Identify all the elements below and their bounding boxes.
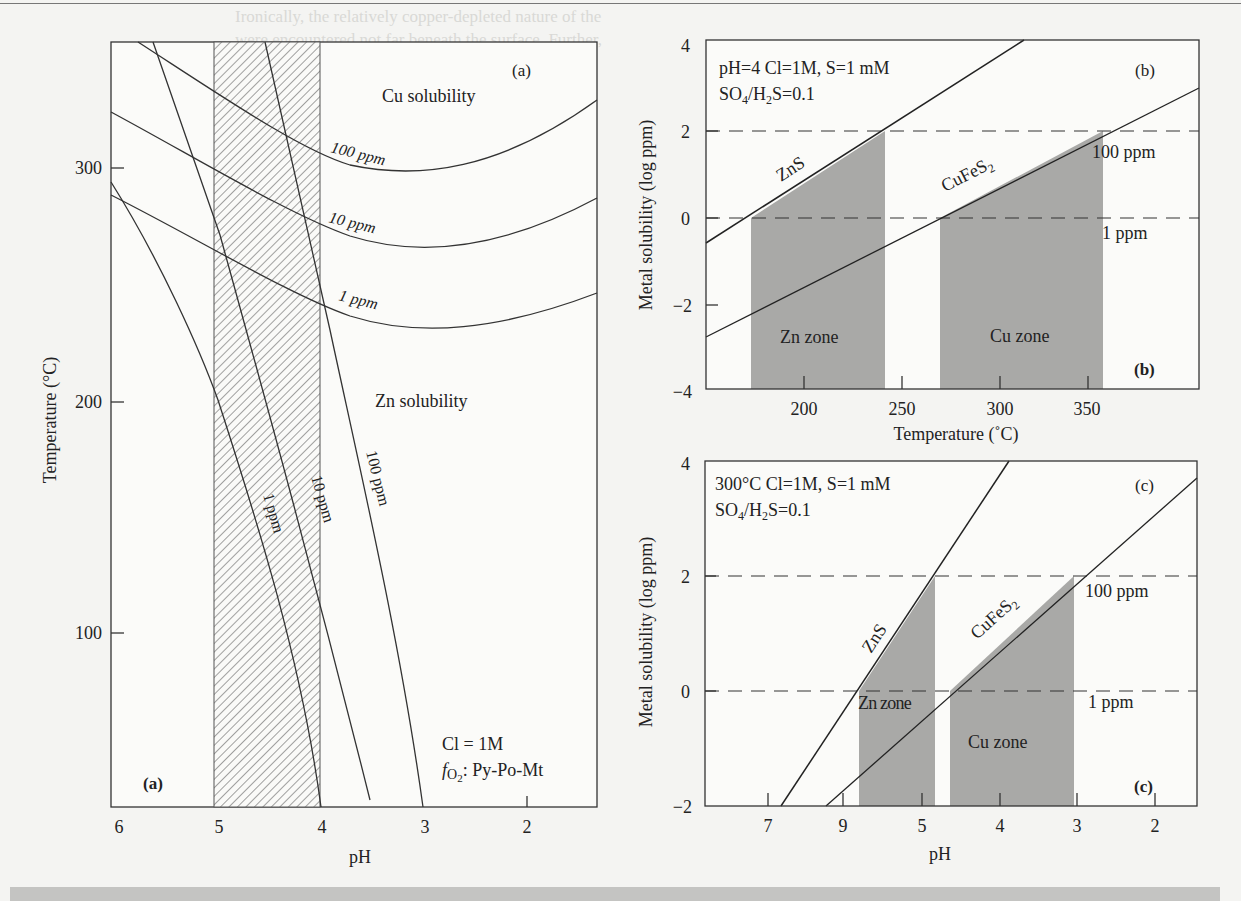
y-tick-300: 300 <box>75 158 102 178</box>
b-y-tick-2: 2 <box>681 122 690 142</box>
b-x-tick-300: 300 <box>987 399 1014 419</box>
x-tick-6: 6 <box>115 817 124 837</box>
label-100ppm: 100 ppm <box>1092 142 1156 162</box>
panel-b-ylabel: Metal solubility (log ppm) <box>636 120 657 311</box>
b-y-tick-4: 4 <box>681 36 690 56</box>
x-tick-5: 5 <box>215 817 224 837</box>
b-y-tick-neg2: −2 <box>673 296 692 316</box>
label-1ppm: 1 ppm <box>1102 223 1148 243</box>
label-100ppm-c: 100 ppm <box>1085 581 1149 601</box>
panel-a: (a) Cu solubility Zn solubility 100 ppm … <box>40 42 597 867</box>
panel-a-tag-bottom: (a) <box>143 774 163 793</box>
b-x-tick-350: 350 <box>1074 399 1101 419</box>
c-y-tick-2: 2 <box>681 567 690 587</box>
b-y-tick-0: 0 <box>681 209 690 229</box>
c-x-tick-2: 2 <box>1151 816 1160 836</box>
y-tick-200: 200 <box>75 392 102 412</box>
c-x-tick-5: 5 <box>918 816 927 836</box>
panel-a-tag: (a) <box>512 61 531 80</box>
hatched-band <box>214 42 320 807</box>
cu-zone-label: Cu zone <box>990 326 1049 346</box>
b-y-tick-neg4: −4 <box>673 382 692 402</box>
panel-c-xlabel: pH <box>929 844 951 864</box>
y-tick-100: 100 <box>75 623 102 643</box>
figure: (a) Cu solubility Zn solubility 100 ppm … <box>0 0 1241 901</box>
c-x-tick-7: 7 <box>764 816 773 836</box>
zn-solubility-label: Zn solubility <box>375 391 468 411</box>
b-x-tick-250: 250 <box>889 399 916 419</box>
x-tick-3: 3 <box>421 817 430 837</box>
zn-zone-label: Zn zone <box>780 327 838 347</box>
c-y-tick-0: 0 <box>681 682 690 702</box>
panel-c-conditions-1: 300°C Cl=1M, S=1 mM <box>715 474 891 494</box>
c-x-tick-4: 4 <box>996 816 1005 836</box>
panel-c-tag: (c) <box>1135 476 1154 495</box>
x-tick-4: 4 <box>318 817 327 837</box>
panel-a-xlabel: pH <box>349 847 371 867</box>
zn-zone-label-c: Zn zone <box>858 693 912 713</box>
cu-zone-label-c: Cu zone <box>968 732 1027 752</box>
panel-b-tag: (b) <box>1135 61 1155 80</box>
panel-c-ylabel: Metal solubility (log ppm) <box>636 537 657 728</box>
panel-b-xlabel: Temperature (˚C) <box>893 424 1018 445</box>
panel-a-ylabel: Temperature (°C) <box>40 357 61 483</box>
c-x-tick-9: 9 <box>839 816 848 836</box>
label-1ppm-c: 1 ppm <box>1088 692 1134 712</box>
page-bottom-bar <box>10 887 1220 901</box>
panel-c: 300°C Cl=1M, S=1 mM SO4/H2S=0.1 (c) (c) … <box>636 454 1197 864</box>
panel-b: pH=4 Cl=1M, S=1 mM SO4/H2S=0.1 (b) (b) Z… <box>636 36 1199 445</box>
c-y-tick-4: 4 <box>681 454 690 474</box>
x-tick-2: 2 <box>523 817 532 837</box>
conditions-cl: Cl = 1M <box>442 734 503 754</box>
c-x-tick-3: 3 <box>1073 816 1082 836</box>
panel-b-conditions-1: pH=4 Cl=1M, S=1 mM <box>719 58 889 78</box>
c-y-tick-neg2: −2 <box>673 797 692 817</box>
panel-b-tag-bottom: (b) <box>1134 360 1155 379</box>
cu-solubility-label: Cu solubility <box>382 86 476 106</box>
panel-c-tag-bottom: (c) <box>1134 777 1153 796</box>
b-x-tick-200: 200 <box>791 399 818 419</box>
